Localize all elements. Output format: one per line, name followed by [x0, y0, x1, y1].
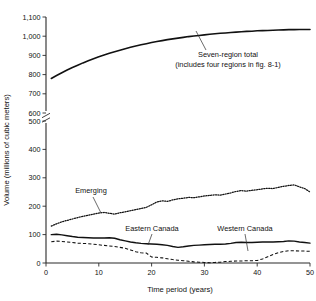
x-tick-label: 0	[44, 268, 48, 277]
x-tick-label: 40	[253, 268, 261, 277]
y-tick-label: 700	[29, 89, 41, 98]
y-tick-label: 600	[29, 109, 41, 118]
y-tick-label: 900	[29, 51, 41, 60]
annotation-western-canada: Western Canada	[217, 224, 273, 233]
x-tick-label: 10	[95, 268, 103, 277]
chart-figure: Volume (millions of cubic meters) 010020…	[0, 0, 316, 301]
annotation-emerging: Emerging	[75, 186, 107, 195]
x-tick-label: 30	[200, 268, 208, 277]
annotation-seven-region-total: Seven-region total	[198, 50, 258, 59]
y-tick-label: 800	[29, 70, 41, 79]
y-tick-label: 300	[29, 173, 41, 182]
y-tick-label: 200	[29, 202, 41, 211]
volume-line-chart: Volume (millions of cubic meters) 010020…	[0, 0, 316, 301]
x-tick-label: 50	[306, 268, 314, 277]
x-axis-title: Time period (years)	[147, 285, 213, 294]
annotation-eastern-canada: Eastern Canada	[125, 224, 179, 233]
y-tick-label: 0	[37, 259, 41, 268]
annotation-seven-region-total-sub: (includes four regions in fig. 8-1)	[175, 60, 281, 69]
chart-background	[0, 0, 316, 301]
y-tick-label: 1,100	[23, 13, 41, 22]
y-tick-label: 100	[29, 230, 41, 239]
y-tick-label: 400	[29, 145, 41, 154]
y-axis-title: Volume (millions of cubic meters)	[2, 94, 11, 206]
y-tick-label: 500	[29, 117, 41, 126]
y-tick-label: 1,000	[23, 32, 41, 41]
x-tick-label: 20	[148, 268, 156, 277]
